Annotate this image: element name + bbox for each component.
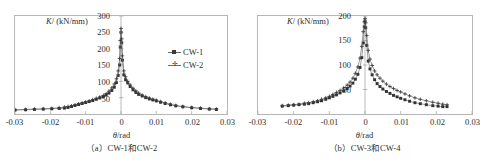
x-tick-b-6: 0.02: [423, 117, 452, 127]
x-tick-b-3: -0.01: [315, 117, 344, 127]
y-tick-a-300: 300: [86, 12, 110, 21]
y-tick-b-50: 50: [327, 86, 351, 95]
caption-a: （a）CW-1和CW-2: [0, 143, 243, 154]
x-tick-b-1: -0.03: [243, 117, 272, 127]
y-tick-a-200: 200: [86, 45, 110, 54]
x-tick-b-4: 0: [351, 117, 380, 127]
y-tick-b-150: 150: [327, 36, 351, 45]
legend-item-cw1: CW-1: [168, 46, 203, 59]
top-partial-text: [4, 0, 154, 9]
x-tick-a-3: -0.01: [71, 117, 100, 127]
legend-a: CW-1 ✛ CW-2: [168, 46, 203, 72]
y-tick-a-100: 100: [86, 78, 110, 87]
x-axis-label-b: θ/rad: [243, 130, 486, 140]
x-tick-a-4: 0: [107, 117, 136, 127]
y-axis-label-b: K/ (kN/mm): [287, 16, 329, 26]
plot-canvas-b: [258, 16, 472, 114]
y-tick-a-50: 50: [86, 95, 110, 104]
legend-item-cw2: ✛ CW-2: [168, 59, 203, 72]
y-tick-a-150: 150: [86, 61, 110, 70]
filled-square-marker-icon: [168, 48, 181, 58]
x-tick-a-1: -0.03: [0, 117, 29, 127]
x-tick-b-7: 0.03: [458, 117, 486, 127]
caption-b: （b）CW-3和CW-4: [243, 143, 486, 154]
x-axis-label-a: θ/rad: [0, 130, 243, 140]
figure-container: K/ (kN/mm) 300 250 200 150 100 50 -0.03 …: [0, 0, 486, 162]
x-tick-a-6: 0.02: [178, 117, 207, 127]
y-tick-a-250: 250: [86, 28, 110, 37]
y-tick-b-100: 100: [327, 61, 351, 70]
y-axis-label-a: K/ (kN/mm): [46, 16, 88, 26]
cross-marker-icon: ✛: [168, 61, 181, 71]
chart-panel-b: K/ (kN/mm) 200 150 100 50 -0.03 -0.02 -0…: [243, 0, 486, 162]
chart-panel-a: K/ (kN/mm) 300 250 200 150 100 50 -0.03 …: [0, 0, 243, 162]
legend-label-cw2: CW-2: [183, 59, 203, 72]
x-tick-a-5: 0.01: [142, 117, 171, 127]
x-tick-b-2: -0.02: [279, 117, 308, 127]
y-tick-b-200: 200: [327, 12, 351, 21]
plot-area-b: [257, 15, 473, 115]
x-tick-a-7: 0.03: [213, 117, 242, 127]
x-tick-a-2: -0.02: [36, 117, 65, 127]
legend-label-cw1: CW-1: [183, 46, 203, 59]
x-tick-b-5: 0.01: [387, 117, 416, 127]
